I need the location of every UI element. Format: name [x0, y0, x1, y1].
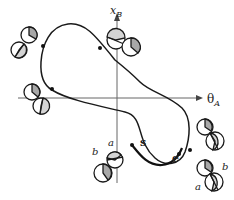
marker-dot [98, 46, 102, 50]
start-point [130, 143, 134, 147]
marker-dot [41, 44, 45, 48]
marker-dot [188, 148, 192, 152]
theta-a-arrow-icon [196, 95, 203, 101]
marker-dot [50, 87, 54, 91]
label-b-bottom-left: b [92, 146, 98, 157]
label-a-bottom-left: a [108, 137, 114, 148]
disc-pair-top-left [11, 27, 37, 58]
end-label: e [172, 152, 179, 165]
start-label: s [140, 136, 146, 149]
x-b-label: xB [110, 4, 122, 19]
disc-pair-left-middle [24, 84, 50, 114]
disc-pair-right-upper [197, 119, 224, 150]
label-b-right: b [222, 161, 228, 172]
label-a-right: a [195, 181, 201, 192]
disc-pair-top-center [107, 28, 140, 56]
configuration-space-diagram: θA xB s e [0, 0, 234, 200]
theta-a-label: θA [207, 92, 220, 108]
